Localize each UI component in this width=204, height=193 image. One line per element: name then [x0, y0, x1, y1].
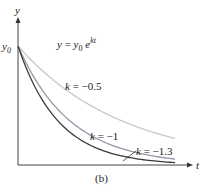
curve-k-neg-0.5	[18, 46, 175, 138]
y-axis-arrow-icon	[16, 17, 21, 23]
y0-label: y0	[1, 40, 11, 55]
x-axis-label: t	[196, 159, 200, 171]
x-axis-arrow-icon	[187, 163, 193, 168]
label-k-neg-0.5: k = −0.5	[65, 80, 102, 92]
formula-label: y = y0 ekt	[56, 36, 97, 53]
curve-k-neg-1	[18, 46, 175, 159]
y-axis-label: y	[14, 4, 20, 16]
chart-canvas: y t y0 y = y0 ekt k = −0.5 k = −1 k = −1…	[0, 0, 204, 193]
y0-sub: 0	[7, 46, 11, 55]
label-k-neg-1: k = −1	[90, 130, 118, 142]
figure-caption: (b)	[95, 172, 108, 185]
exponential-decay-chart: y t y0 y = y0 ekt k = −0.5 k = −1 k = −1…	[0, 0, 204, 193]
label-k-neg-1.3: k = −1.3	[136, 145, 173, 157]
